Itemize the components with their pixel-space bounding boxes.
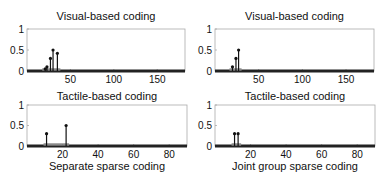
x-tick-label: 60 [128, 149, 140, 160]
y-tick-label: 0 [18, 141, 24, 152]
plot-tactile-separate: 00.5120406080 [10, 100, 187, 161]
y-tick-label: 0.5 [198, 45, 212, 56]
x-tick-label: 80 [164, 149, 176, 160]
y-tick-label: 1 [206, 24, 212, 35]
stem [65, 124, 68, 146]
y-tick-label: 0.5 [198, 120, 212, 131]
y-tick-label: 0.5 [10, 120, 24, 131]
y-tick-label: 0 [206, 141, 212, 152]
stem-plots: 00.515010015000.515010015000.51204060800… [0, 0, 388, 180]
x-tick-label: 60 [316, 149, 328, 160]
plot-visual-joint: 00.5150100150 [198, 24, 374, 86]
y-tick-label: 0 [206, 66, 212, 77]
plot-tactile-joint: 00.5120406080 [198, 100, 375, 161]
y-tick-label: 1 [18, 24, 24, 35]
x-tick-label: 20 [57, 149, 69, 160]
y-tick-label: 0 [18, 66, 24, 77]
axes-box [215, 105, 375, 146]
x-tick-label: 150 [149, 74, 166, 85]
x-tick-label: 80 [352, 149, 364, 160]
y-tick-label: 1 [206, 100, 212, 111]
x-tick-label: 100 [105, 74, 122, 85]
x-tick-label: 100 [294, 74, 311, 85]
x-tick-label: 50 [65, 74, 77, 85]
y-tick-label: 1 [18, 100, 24, 111]
x-tick-label: 20 [245, 149, 257, 160]
stem [237, 48, 240, 71]
x-tick-label: 40 [281, 149, 293, 160]
plot-visual-separate: 00.5150100150 [10, 24, 185, 86]
x-tick-label: 40 [93, 149, 105, 160]
x-tick-label: 50 [253, 74, 265, 85]
y-tick-label: 0.5 [10, 45, 24, 56]
stem [51, 48, 54, 71]
axes-box [27, 105, 187, 146]
x-tick-label: 150 [338, 74, 355, 85]
